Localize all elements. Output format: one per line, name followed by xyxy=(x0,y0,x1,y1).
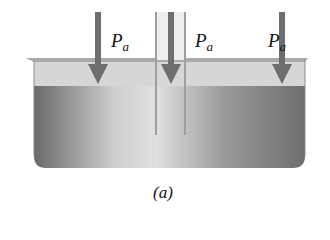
liquid xyxy=(34,86,305,168)
figure-caption: (a) xyxy=(153,183,173,203)
pressure-label-middle: Pa xyxy=(195,31,213,53)
pressure-label-left: Pa xyxy=(111,31,129,53)
pressure-label-right: Pa xyxy=(268,31,286,53)
